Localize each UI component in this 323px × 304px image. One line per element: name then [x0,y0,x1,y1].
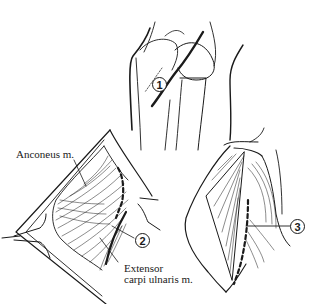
callout-3: 3 [290,219,305,234]
callout-1: 1 [152,77,167,92]
deep-dissection-drawing [185,128,290,292]
callout-3-number: 3 [294,221,300,233]
callout-1-number: 1 [156,79,162,91]
anconeus-label: Anconeus m. [16,149,74,160]
callout-2-number: 2 [139,235,145,247]
elbow-joint-drawing [130,22,258,150]
figure: 1 2 3 Anconeus m. Extensor carpi ulnaris… [0,0,323,304]
callout-2: 2 [135,233,150,248]
ecu-label-line2: carpi ulnaris m. [124,274,193,285]
